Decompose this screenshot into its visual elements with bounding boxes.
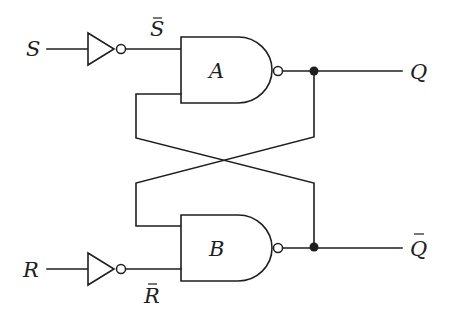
gate-b-output-bubble	[274, 244, 283, 253]
input-r-path: R R	[22, 253, 181, 308]
input-r-label: R	[22, 258, 39, 282]
output-qbar-label: Q	[410, 237, 427, 261]
junction-qbar-dot	[310, 243, 319, 252]
nand-gate-a-icon	[181, 37, 272, 103]
input-s-path: S S	[26, 17, 181, 65]
inverter-s-icon	[88, 33, 114, 65]
inverter-r-icon	[88, 253, 114, 285]
gate-a-output-bubble	[274, 67, 283, 76]
input-s-label: S	[26, 37, 40, 61]
nand-gate-b: B	[181, 215, 283, 281]
inverter-r-bubble	[117, 265, 126, 274]
r-bar-label: R	[143, 284, 160, 308]
nand-gate-b-icon	[181, 215, 272, 281]
gate-b-label: B	[208, 237, 224, 261]
sr-latch-diagram: S S A Q B Q R R	[0, 0, 449, 319]
nand-gate-a: A	[181, 37, 283, 103]
output-q-label: Q	[410, 60, 427, 84]
inverter-s-bubble	[117, 45, 126, 54]
s-bar-label: S	[150, 17, 164, 41]
gate-a-label: A	[207, 59, 224, 83]
